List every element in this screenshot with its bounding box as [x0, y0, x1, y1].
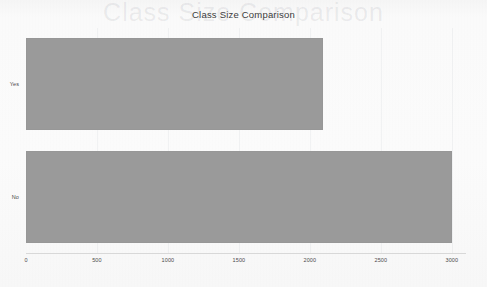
x-axis-line	[26, 253, 466, 254]
bar-no	[26, 151, 452, 243]
plot-area	[26, 28, 466, 253]
x-tick-label-2000: 2000	[304, 257, 317, 263]
chart-title: Class Size Comparison	[0, 9, 487, 20]
gridline	[452, 28, 453, 253]
bar-yes	[26, 38, 323, 130]
x-tick-label-0: 0	[24, 257, 27, 263]
chart-screenshot: Class Size Comparison Class Size Compari…	[0, 0, 487, 287]
x-tick-label-1000: 1000	[162, 257, 175, 263]
x-tick-label-2500: 2500	[375, 257, 388, 263]
x-tick-label-3000: 3000	[445, 257, 458, 263]
y-tick-label-yes: Yes	[10, 81, 19, 87]
x-tick-label-1500: 1500	[233, 257, 246, 263]
x-tick-label-500: 500	[92, 257, 101, 263]
figure: Class Size Comparison YesNo 050010001500…	[0, 0, 487, 287]
y-tick-label-no: No	[12, 194, 19, 200]
